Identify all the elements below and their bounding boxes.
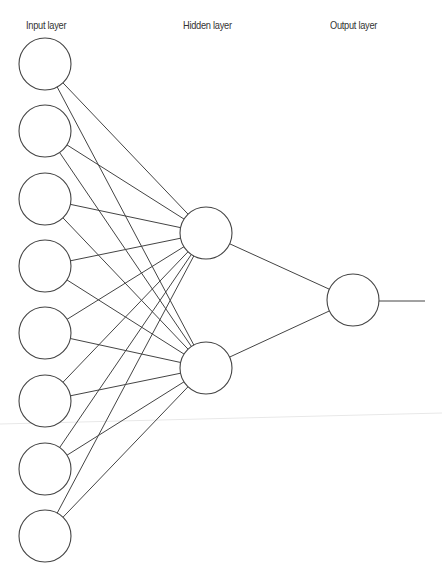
neural-network-diagram xyxy=(0,0,442,571)
input-hidden-edge xyxy=(45,131,206,233)
input-hidden-edge xyxy=(45,233,206,333)
hidden-node xyxy=(180,207,232,259)
hidden-node xyxy=(180,342,232,394)
input-node xyxy=(19,105,71,157)
input-node xyxy=(19,173,71,225)
input-node xyxy=(19,38,71,90)
input-node xyxy=(19,510,71,562)
input-node xyxy=(19,375,71,427)
input-node xyxy=(19,240,71,292)
input-hidden-edge xyxy=(45,233,206,536)
input-hidden-edge xyxy=(45,368,206,469)
input-node xyxy=(19,307,71,359)
input-node xyxy=(19,443,71,495)
output-node xyxy=(327,274,379,326)
